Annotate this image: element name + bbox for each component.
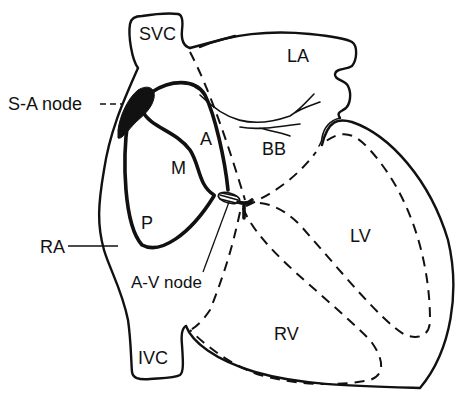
label-sa-node: S-A node [8,94,82,114]
right-atrium-outline [99,14,190,380]
label-ivc: IVC [138,348,168,368]
label-middle: M [171,158,186,178]
label-la: LA [287,46,309,66]
label-bb: BB [262,139,286,159]
label-svc: SVC [139,24,176,44]
av-node-leader [203,202,229,272]
heart-conduction-diagram: SVC LA S-A node A BB M P RA LV A-V node … [0,0,457,393]
ventricle-outline [186,120,453,388]
av-to-ivc-dashed [186,212,240,332]
anterior-pathway [152,83,228,190]
label-lv: LV [350,226,371,246]
left-atrium-outline [200,33,356,118]
label-ra: RA [40,237,65,257]
label-rv: RV [274,324,299,344]
label-anterior: A [200,129,212,149]
lv-boundary-dashed [243,134,430,337]
av-to-la-dashed [246,152,316,206]
middle-pathway [142,110,214,195]
label-av-node: A-V node [131,273,202,292]
label-posterior: P [141,213,153,233]
sa-node [118,87,154,138]
